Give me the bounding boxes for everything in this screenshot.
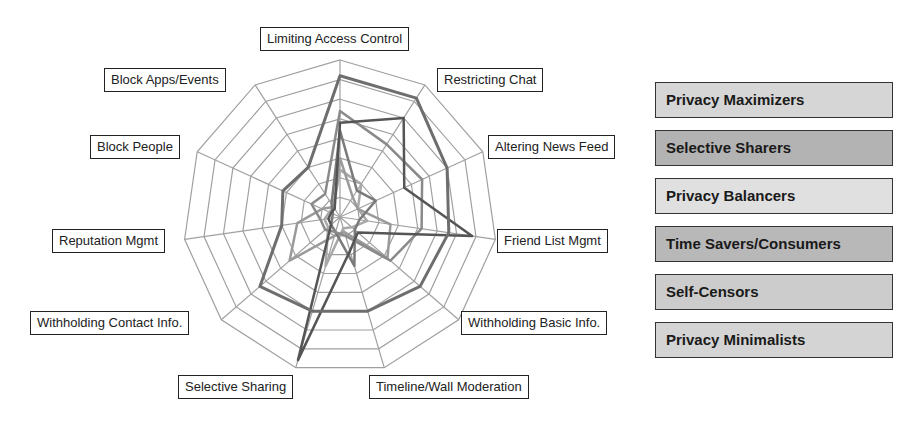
axis-label-selective-sharing: Selective Sharing <box>178 375 293 399</box>
legend-item-selective-sharers: Selective Sharers <box>655 130 893 166</box>
axis-label-withholding-contact-info: Withholding Contact Info. <box>30 311 189 335</box>
legend-item-privacy-balancers: Privacy Balancers <box>655 178 893 214</box>
axis-label-limiting-access-control: Limiting Access Control <box>260 27 409 51</box>
radar-series <box>260 76 472 360</box>
axis-label-restricting-chat: Restricting Chat <box>437 68 543 92</box>
axis-label-reputation-mgmt: Reputation Mgmt <box>52 229 165 253</box>
axis-label-block-apps-events: Block Apps/Events <box>104 68 226 92</box>
legend-item-self-censors: Self-Censors <box>655 274 893 310</box>
axis-label-timeline-wall-moderation: Timeline/Wall Moderation <box>369 375 529 399</box>
axis-label-block-people: Block People <box>90 135 180 159</box>
legend-item-time-savers-consumers: Time Savers/Consumers <box>655 226 893 262</box>
legend-item-privacy-minimalists: Privacy Minimalists <box>655 322 893 358</box>
axis-label-altering-news-feed: Altering News Feed <box>488 135 615 159</box>
legend: Privacy Maximizers Selective Sharers Pri… <box>655 82 893 370</box>
axis-label-withholding-basic-info: Withholding Basic Info. <box>461 311 607 335</box>
legend-item-privacy-maximizers: Privacy Maximizers <box>655 82 893 118</box>
axis-label-friend-list-mgmt: Friend List Mgmt <box>497 229 608 253</box>
